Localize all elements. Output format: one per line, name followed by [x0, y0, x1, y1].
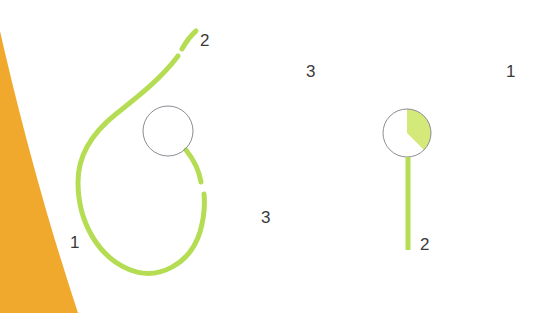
label-1-left: 1: [70, 234, 79, 251]
label-3-upper: 3: [306, 63, 315, 80]
label-1-right: 1: [506, 63, 515, 80]
figure-canvas: 2 1 3 3 1 2: [0, 0, 549, 313]
label-2-top-left: 2: [200, 32, 209, 49]
label-3-mid: 3: [261, 209, 270, 226]
label-2-right: 2: [420, 236, 429, 253]
figure-svg: [0, 0, 549, 313]
